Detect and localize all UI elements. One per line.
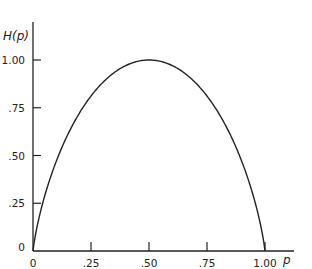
- x-tick-label: 0: [30, 257, 37, 269]
- x-axis-label: p: [282, 253, 291, 267]
- y-tick-label: 1.00: [2, 54, 25, 66]
- y-tick-label: .75: [8, 102, 25, 114]
- y-tick-label: .50: [8, 150, 25, 162]
- entropy-chart: 0.25.50.751.00 0.25.50.751.00 H(p) p: [0, 0, 312, 269]
- y-axis-label: H(p): [3, 29, 29, 43]
- x-tick-label: .25: [83, 257, 100, 269]
- axes: [33, 22, 294, 251]
- x-ticks: 0.25.50.751.00: [30, 242, 277, 269]
- entropy-curve: [33, 60, 265, 251]
- x-tick-label: .75: [199, 257, 216, 269]
- y-tick-label: 0: [18, 241, 25, 253]
- y-ticks: 0.25.50.751.00: [2, 54, 41, 253]
- x-tick-label: .50: [141, 257, 158, 269]
- x-tick-label: 1.00: [253, 257, 276, 269]
- y-tick-label: .25: [8, 197, 25, 209]
